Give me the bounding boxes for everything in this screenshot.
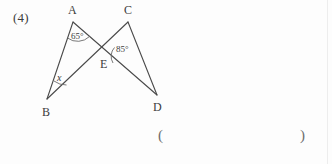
angle-label-e: 85° bbox=[116, 45, 129, 54]
answer-close-paren: ) bbox=[300, 128, 305, 143]
segment-ad bbox=[73, 22, 157, 95]
vertex-label-a: A bbox=[68, 4, 77, 16]
answer-open-paren: ( bbox=[158, 128, 163, 143]
vertex-label-d: D bbox=[153, 101, 162, 113]
segment-cd bbox=[128, 22, 157, 95]
angle-label-b-unknown: x bbox=[57, 73, 61, 83]
geometry-figure bbox=[0, 0, 332, 164]
segment-cb bbox=[47, 22, 128, 99]
angle-label-a: 65° bbox=[71, 32, 84, 41]
vertex-label-b: B bbox=[42, 106, 50, 118]
vertex-label-e: E bbox=[100, 58, 107, 70]
worksheet-page: (4) A C B D E 65° 85° x ( ) bbox=[0, 0, 332, 164]
vertex-label-c: C bbox=[124, 4, 132, 16]
segment-ab bbox=[47, 22, 73, 99]
